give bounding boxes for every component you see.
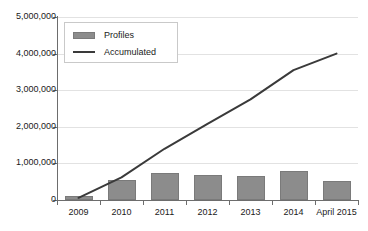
x-axis-label: 2013 [229, 207, 272, 217]
y-axis-label: 2,000,000 [16, 122, 56, 131]
x-tick-mark [100, 201, 101, 205]
x-axis-line [57, 200, 359, 201]
y-axis-label: 5,000,000 [16, 12, 56, 21]
x-tick-mark [358, 201, 359, 205]
x-tick-mark [57, 201, 58, 205]
x-tick-mark [143, 201, 144, 205]
legend-label-profiles: Profiles [104, 30, 134, 40]
x-axis-label: 2011 [143, 207, 186, 217]
x-tick-mark [315, 201, 316, 205]
y-axis-label: 3,000,000 [16, 85, 56, 94]
x-tick-mark [186, 201, 187, 205]
legend-item-profiles: Profiles [73, 28, 134, 42]
x-axis-label: April 2015 [315, 207, 358, 217]
x-axis-label: 2014 [272, 207, 315, 217]
legend-item-accumulated: Accumulated [73, 45, 156, 59]
legend-line-swatch-icon [73, 51, 95, 53]
x-tick-mark [272, 201, 273, 205]
chart-legend: Profiles Accumulated [64, 22, 178, 63]
legend-bar-swatch-icon [73, 32, 95, 39]
x-tick-mark [229, 201, 230, 205]
accumulated-line-path [79, 54, 337, 198]
x-axis-label: 2010 [100, 207, 143, 217]
x-axis-label: 2009 [57, 207, 100, 217]
chart-container: 01,000,0002,000,0003,000,0004,000,0005,0… [0, 0, 368, 231]
x-axis-label: 2012 [186, 207, 229, 217]
y-axis-label: 0 [51, 195, 56, 204]
y-axis-label: 1,000,000 [16, 158, 56, 167]
y-axis-label: 4,000,000 [16, 49, 56, 58]
legend-label-accumulated: Accumulated [104, 47, 156, 57]
